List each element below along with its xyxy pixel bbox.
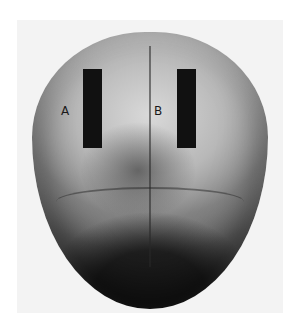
redaction-bar-right	[177, 69, 196, 148]
redaction-bar-left	[83, 69, 102, 148]
skull-image	[32, 32, 268, 309]
sagittal-suture	[149, 46, 151, 268]
lambdoid-suture	[56, 187, 245, 217]
photo-frame: A B	[17, 20, 283, 313]
label-a: A	[61, 104, 69, 118]
label-b: B	[154, 104, 162, 118]
